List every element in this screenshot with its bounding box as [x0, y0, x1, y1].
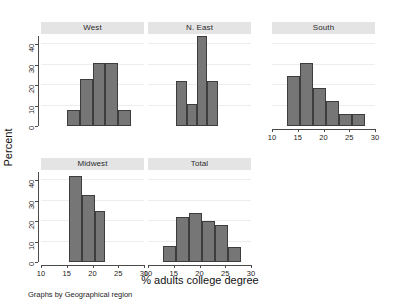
histogram-figure: West010203040N. EastSouth1015202530Midwe…	[0, 0, 396, 307]
panel-midwest: Midwest	[41, 158, 144, 262]
plot-area	[41, 36, 144, 126]
x-axis-tick	[349, 129, 350, 132]
panel-title-label: N. East	[186, 24, 213, 32]
x-axis-tick	[118, 265, 119, 268]
panel-total: Total	[148, 158, 251, 262]
histogram-bar	[352, 114, 365, 126]
panel-title-label: Midwest	[77, 160, 107, 168]
gridline	[41, 179, 144, 180]
panel-title-label: West	[83, 24, 101, 32]
gridline	[272, 64, 375, 65]
x-axis-tick	[200, 265, 201, 268]
panel-title-label: Total	[191, 160, 208, 168]
histogram-bar	[228, 247, 241, 262]
histogram-bar	[189, 213, 202, 262]
panel-title-strip: N. East	[148, 22, 251, 34]
panel-south: South	[272, 22, 375, 126]
x-axis-tick-label: 10	[31, 270, 51, 278]
x-axis-tick	[144, 265, 145, 268]
y-axis-title: Percent	[3, 118, 14, 178]
histogram-bar	[207, 81, 217, 126]
panel-title-strip: Total	[148, 158, 251, 170]
x-axis-tick	[324, 129, 325, 132]
x-axis-tick-label: 25	[339, 134, 359, 142]
histogram-bar	[69, 176, 82, 262]
panel-west: West	[41, 22, 144, 126]
plot-area	[148, 172, 251, 262]
x-axis-tick	[93, 265, 94, 268]
histogram-bar	[67, 110, 80, 126]
histogram-bar	[82, 195, 95, 263]
gridline	[148, 200, 251, 201]
histogram-bar	[176, 81, 186, 126]
panel-n-east: N. East	[148, 22, 251, 126]
histogram-bar	[197, 36, 207, 126]
panel-title-strip: Midwest	[41, 158, 144, 170]
histogram-bar	[105, 63, 118, 126]
histogram-bar	[163, 246, 176, 262]
histogram-bar	[300, 63, 313, 126]
y-axis-line	[38, 36, 39, 126]
x-axis-tick-label: 15	[288, 134, 308, 142]
x-axis-tick-label: 15	[57, 270, 77, 278]
plot-area	[41, 172, 144, 262]
x-axis-tick	[375, 129, 376, 132]
x-axis-tick-label: 20	[83, 270, 103, 278]
figure-note: Graphs by Geographical region	[28, 291, 132, 299]
histogram-bar	[80, 79, 93, 126]
y-axis-tick-label: 40	[28, 180, 36, 220]
x-axis-title: % adults college degree	[110, 275, 290, 286]
gridline	[272, 43, 375, 44]
panel-title-strip: South	[272, 22, 375, 34]
histogram-bar	[313, 88, 326, 126]
panel-title-label: South	[313, 24, 334, 32]
x-axis-tick	[41, 265, 42, 268]
x-axis-tick-label: 20	[314, 134, 334, 142]
gridline	[41, 43, 144, 44]
histogram-bar	[215, 225, 228, 262]
plot-area	[148, 36, 251, 126]
y-axis-tick-label: 40	[28, 44, 36, 84]
x-axis-tick	[174, 265, 175, 268]
panel-title-strip: West	[41, 22, 144, 34]
x-axis-tick	[272, 129, 273, 132]
x-axis-tick	[225, 265, 226, 268]
histogram-bar	[95, 211, 105, 262]
histogram-bar	[326, 101, 339, 126]
histogram-bar	[339, 114, 352, 126]
histogram-bar	[187, 104, 197, 127]
x-axis-tick	[298, 129, 299, 132]
x-axis-tick	[251, 265, 252, 268]
x-axis-tick	[67, 265, 68, 268]
histogram-bar	[118, 110, 131, 126]
histogram-bar	[202, 221, 215, 262]
x-axis-tick-label: 30	[365, 134, 385, 142]
x-axis-tick	[148, 265, 149, 268]
plot-area	[272, 36, 375, 126]
histogram-bar	[287, 76, 300, 126]
y-axis-line	[38, 172, 39, 262]
x-axis-tick-label: 10	[262, 134, 282, 142]
gridline	[148, 179, 251, 180]
histogram-bar	[93, 63, 106, 126]
histogram-bar	[176, 217, 189, 262]
